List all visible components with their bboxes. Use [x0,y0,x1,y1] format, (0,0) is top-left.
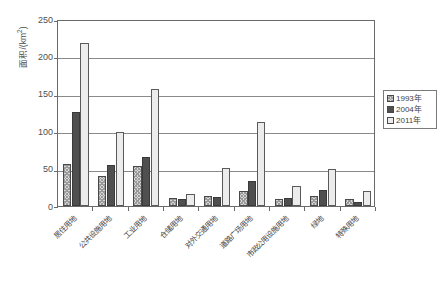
x-axis-category-labels: 居住用地公共设施用地工业用地仓储用地对外交通用地道路广场用地市政公用设施用地绿地… [0,0,445,292]
legend-swatch-icon [387,95,394,102]
legend-swatch-icon [387,106,394,113]
bar-chart: 面积/(km2) 050100150200250 居住用地公共设施用地工业用地仓… [0,0,445,292]
legend-item: 2004年 [387,104,434,115]
chart-legend: 1993年2004年2011年 [383,90,437,129]
legend-item: 2011年 [387,115,434,126]
legend-label: 2004年 [396,105,422,115]
legend-item: 1993年 [387,93,434,104]
legend-label: 1993年 [396,94,422,104]
legend-label: 2011年 [396,116,421,126]
legend-swatch-icon [387,117,394,124]
